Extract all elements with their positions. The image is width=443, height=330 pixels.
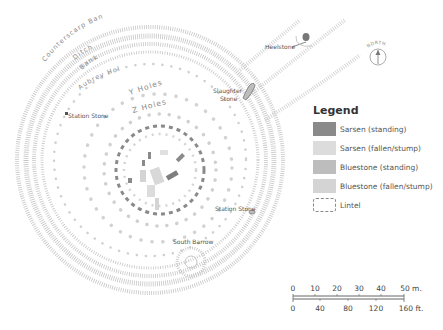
legend-item-bluestone-fallen: Bluestone (fallen/stump) [313, 179, 433, 193]
legend-item-sarsen-standing: Sarsen (standing) [313, 122, 407, 136]
legend-item-bluestone-standing: Bluestone (standing) [313, 160, 418, 174]
scale-metric-30: 30 [354, 284, 364, 293]
scale-metric-10: 10 [310, 284, 320, 293]
scale-metric-20: 20 [332, 284, 342, 293]
scale-imperial-80: 80 [343, 304, 353, 313]
scale-metric-0: 0 [291, 284, 296, 293]
legend-label: Sarsen (fallen/stump) [340, 144, 421, 153]
compass [370, 49, 386, 65]
svg-text:NORTH: NORTH [366, 40, 387, 49]
legend-label: Lintel [340, 201, 361, 210]
scale-imperial-120: 120 [369, 304, 383, 313]
legend-item-sarsen-fallen: Sarsen (fallen/stump) [313, 141, 421, 155]
legend-label: Sarsen (standing) [340, 125, 407, 134]
label-slaughter-stone-2: Stone [220, 96, 237, 102]
scale-imperial-40: 40 [315, 304, 325, 313]
compass-label: NORTH [366, 40, 387, 49]
swatch-lintel [313, 198, 336, 212]
trilithon-horseshoe [128, 150, 185, 210]
scale-imperial-0: 0 [291, 304, 296, 313]
scale-imperial-160: 160 ft. [399, 304, 424, 313]
swatch-bluestone-fallen [313, 179, 336, 193]
label-station-stone-southeast: Station Stone [215, 206, 256, 212]
legend-label: Bluestone (fallen/stump) [340, 182, 433, 191]
label-heelstone: Heelstone [265, 44, 295, 50]
earthwork-rings [17, 27, 283, 293]
label-slaughter-stone-1: Slaughter [213, 88, 242, 94]
scale-bar-lines [290, 292, 440, 304]
label-y-holes: Y Holes [127, 78, 164, 98]
north-arrow-icon [376, 50, 381, 55]
legend-item-lintel: Lintel [313, 198, 361, 212]
legend-label: Bluestone (standing) [340, 163, 418, 172]
swatch-bluestone-standing [313, 160, 336, 174]
scale-metric-50: 50 m. [400, 284, 422, 293]
label-station-stone-west: Station Stone [68, 113, 109, 119]
scale-metric-40: 40 [376, 284, 386, 293]
swatch-sarsen-standing [313, 122, 336, 136]
legend-title: Legend [313, 104, 359, 117]
label-south-barrow: South Barrow [173, 239, 213, 245]
swatch-sarsen-fallen [313, 141, 336, 155]
label-z-holes: Z Holes [131, 97, 167, 115]
